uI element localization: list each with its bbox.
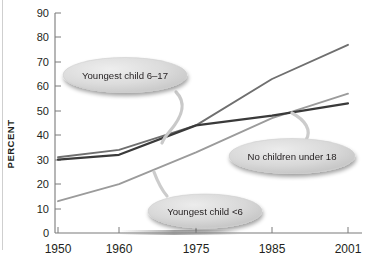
y-tick-label-70: 70 bbox=[37, 56, 49, 68]
y-axis-title-text: PERCENT bbox=[5, 120, 16, 169]
y-tick-label-30: 30 bbox=[37, 154, 49, 166]
callout-middle: No children under 18 bbox=[229, 139, 355, 174]
x-tick-label-2001: 2001 bbox=[335, 242, 362, 256]
x-tick-label-1975: 1975 bbox=[183, 242, 210, 256]
chart-canvas: PERCENT 90 80 70 60 50 40 30 20 10 0 195… bbox=[0, 0, 371, 271]
x-tick-label-1985: 1985 bbox=[259, 242, 286, 256]
x-tick-label-1950: 1950 bbox=[45, 242, 72, 256]
y-tick-label-60: 60 bbox=[37, 80, 49, 92]
y-tick-label-90: 90 bbox=[37, 7, 49, 19]
line-chart-figure: PERCENT 90 80 70 60 50 40 30 20 10 0 195… bbox=[0, 0, 371, 271]
y-tick-label-0: 0 bbox=[43, 227, 49, 239]
y-tick-label-40: 40 bbox=[37, 129, 49, 141]
y-tick-label-50: 50 bbox=[37, 105, 49, 117]
axis-shadow-smudge bbox=[120, 230, 240, 235]
y-tick-label-20: 20 bbox=[37, 178, 49, 190]
x-tick-label-1960: 1960 bbox=[106, 242, 133, 256]
y-axis-title: PERCENT bbox=[5, 120, 16, 169]
callout-bottom: Youngest child <6 bbox=[148, 194, 262, 228]
callout-top-label: Youngest child 6–17 bbox=[82, 70, 168, 81]
callout-bottom-label: Youngest child <6 bbox=[167, 206, 243, 217]
y-tick-label-80: 80 bbox=[37, 31, 49, 43]
callout-top: Youngest child 6–17 bbox=[63, 58, 187, 93]
y-tick-label-10: 10 bbox=[37, 203, 49, 215]
callout-middle-label: No children under 18 bbox=[247, 151, 336, 162]
